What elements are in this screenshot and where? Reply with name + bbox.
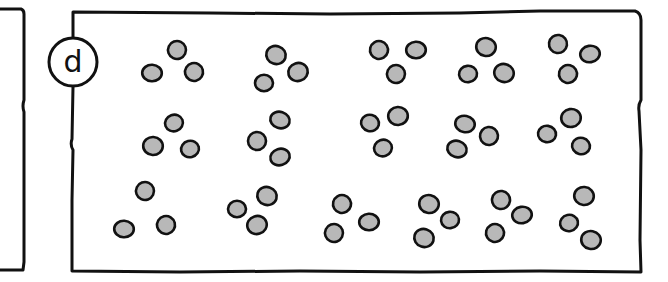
grey-dot xyxy=(384,62,407,85)
grey-dot xyxy=(372,137,395,159)
grey-dot xyxy=(143,136,164,155)
grey-dot xyxy=(228,201,246,217)
dot-group xyxy=(248,109,292,167)
grey-dot xyxy=(331,193,353,215)
grey-dot xyxy=(255,185,279,208)
dot-group xyxy=(548,34,601,85)
grey-dot xyxy=(491,190,511,210)
grey-dot xyxy=(475,36,498,57)
grey-dot xyxy=(268,146,292,167)
dot-group xyxy=(412,193,460,249)
grey-dot xyxy=(114,220,134,237)
dot-group xyxy=(458,36,516,84)
grey-dot xyxy=(479,126,499,146)
grey-dot xyxy=(484,222,506,244)
grey-dot xyxy=(183,61,205,83)
panel-label-badge: d xyxy=(49,38,97,86)
grey-dot xyxy=(255,75,273,91)
dot-group xyxy=(228,185,279,237)
grey-dot xyxy=(579,44,601,63)
grey-dot xyxy=(286,61,310,84)
dot-group xyxy=(359,106,408,158)
grey-dot xyxy=(388,106,409,125)
grey-dot xyxy=(412,227,436,250)
grey-dot xyxy=(268,109,292,130)
dot-group xyxy=(143,112,201,159)
dot-groups xyxy=(114,34,603,251)
dot-group xyxy=(142,38,205,82)
grey-dot xyxy=(165,38,188,61)
dot-group xyxy=(255,44,310,92)
grey-dot xyxy=(264,44,288,67)
grey-dot xyxy=(557,63,579,85)
dot-group xyxy=(537,108,592,157)
grey-dot xyxy=(492,62,516,85)
grey-dot xyxy=(359,113,380,133)
dot-group xyxy=(445,114,499,160)
grey-dot xyxy=(558,213,579,233)
grey-dot xyxy=(458,65,478,83)
grey-dot xyxy=(548,34,568,54)
grey-dot xyxy=(406,41,426,58)
dot-group xyxy=(322,193,379,244)
grey-dot xyxy=(142,64,162,81)
grey-dot xyxy=(418,193,441,214)
grey-dot xyxy=(322,221,345,244)
grey-dot xyxy=(573,186,594,206)
grey-dot xyxy=(511,205,533,224)
grey-dot xyxy=(440,211,460,229)
grey-dot xyxy=(580,229,603,250)
dot-group xyxy=(114,179,177,237)
grey-dot xyxy=(179,139,200,159)
panel-label: d xyxy=(63,44,82,79)
grey-dot xyxy=(537,125,557,144)
grey-dot xyxy=(570,136,591,156)
dot-group xyxy=(368,39,426,85)
grey-dot xyxy=(245,214,269,237)
previous-panel-edge xyxy=(0,9,24,270)
grey-dot xyxy=(359,213,379,230)
dot-group xyxy=(558,186,602,251)
grey-dot xyxy=(133,179,156,202)
diagram-canvas: d xyxy=(0,0,668,282)
grey-dot xyxy=(155,214,177,236)
dot-row-1 xyxy=(142,34,601,91)
dot-group xyxy=(484,190,533,244)
dot-row-2 xyxy=(143,106,592,167)
grey-dot xyxy=(368,39,390,61)
grey-dot xyxy=(445,138,469,159)
grey-dot xyxy=(248,132,266,150)
grey-dot xyxy=(163,112,186,134)
dot-row-3 xyxy=(114,179,603,250)
grey-dot xyxy=(560,108,582,129)
grey-dot xyxy=(454,114,476,134)
